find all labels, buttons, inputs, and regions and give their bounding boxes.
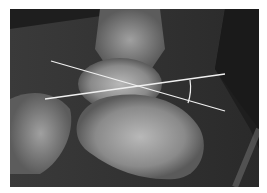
radiograph-svg xyxy=(10,9,259,187)
radiograph-image xyxy=(10,9,259,187)
